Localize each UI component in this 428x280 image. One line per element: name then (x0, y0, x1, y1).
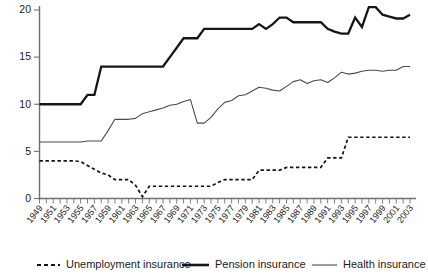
x-tick-label: 2003 (395, 203, 415, 225)
y-tick-label: 0 (25, 192, 31, 204)
series-line-pension-insurance (40, 7, 411, 104)
legend-label: Health insurance (343, 258, 426, 270)
series-line-unemployment-insurance (40, 137, 411, 196)
chart-legend: Unemployment insurancePension insuranceH… (37, 258, 426, 270)
y-axis-ticks: 05101520 (19, 3, 39, 204)
legend-label: Unemployment insurance (66, 258, 191, 270)
y-tick-label: 20 (19, 3, 31, 15)
y-tick-label: 10 (19, 98, 31, 110)
line-chart: 05101520 1949195119531955195719591961196… (0, 0, 428, 280)
chart-container: 05101520 1949195119531955195719591961196… (0, 0, 428, 280)
y-tick-label: 15 (19, 50, 31, 62)
legend-label: Pension insurance (215, 258, 306, 270)
series-line-health-insurance (40, 67, 411, 142)
x-axis-ticks (40, 199, 411, 204)
series-group (40, 7, 411, 196)
y-tick-label: 5 (25, 145, 31, 157)
x-axis-labels: 1949195119531955195719591961196319651967… (24, 203, 415, 225)
